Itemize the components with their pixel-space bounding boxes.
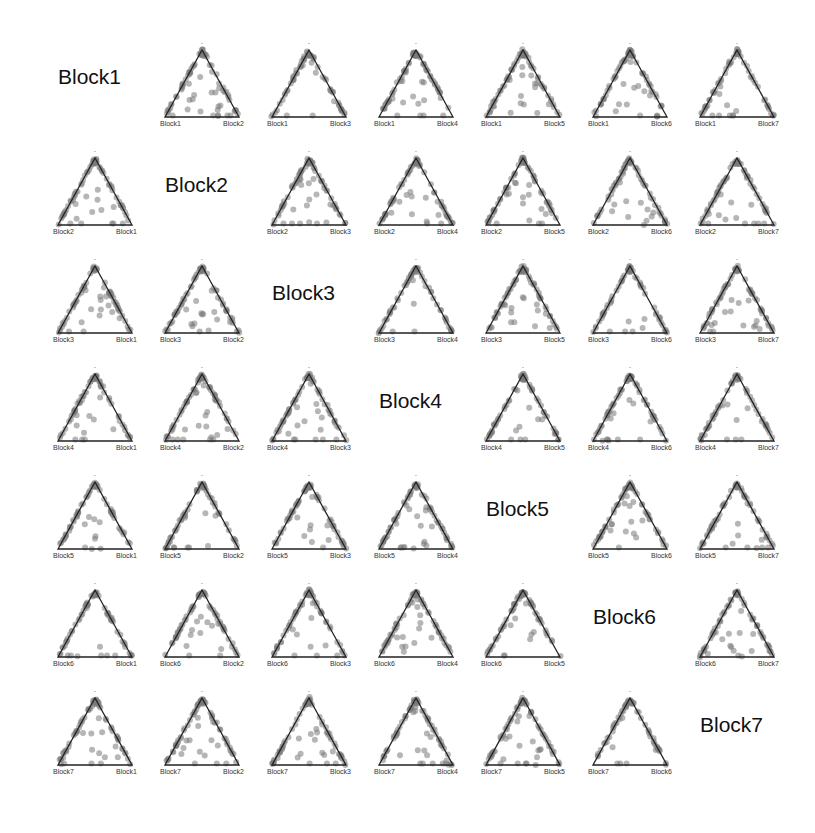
apex-label: · (522, 256, 524, 263)
ternary-plot-7-1: ·Block7Block1 (40, 688, 147, 796)
apex-label: · (736, 40, 738, 47)
ternary-triangle: ·Block3Block5 (468, 256, 575, 364)
right-vertex-label: Block2 (223, 660, 244, 667)
right-vertex-label: Block4 (437, 336, 458, 343)
right-vertex-label: Block3 (330, 444, 351, 451)
left-vertex-label: Block2 (481, 228, 502, 235)
data-points (595, 697, 669, 768)
ternary-triangle: ·Block2Block5 (468, 148, 575, 256)
ternary-plot-3-6: ·Block3Block6 (575, 256, 682, 364)
triangle-outline (486, 374, 560, 441)
apex-label: · (629, 472, 631, 479)
ternary-plot-5-3: ·Block5Block3 (254, 472, 361, 580)
apex-label: · (736, 364, 738, 371)
ternary-triangle: ·Block6Block2 (147, 580, 254, 688)
apex-label: · (94, 688, 96, 695)
triangle-outline (58, 266, 132, 333)
triangle-outline (379, 50, 453, 117)
ternary-plot-6-2: ·Block6Block2 (147, 580, 254, 688)
right-vertex-label: Block3 (330, 228, 351, 235)
right-vertex-label: Block1 (116, 228, 137, 235)
left-vertex-label: Block1 (160, 120, 181, 127)
left-vertex-label: Block5 (695, 552, 716, 559)
ternary-triangle: ·Block5Block7 (682, 472, 789, 580)
triangle-outline (379, 266, 453, 333)
data-points (591, 479, 669, 550)
ternary-plot-7-3: ·Block7Block3 (254, 688, 361, 796)
ternary-triangle: ·Block7Block3 (254, 688, 361, 796)
left-vertex-label: Block2 (695, 228, 716, 235)
apex-label: · (308, 40, 310, 47)
ternary-plot-6-3: ·Block6Block3 (254, 580, 361, 688)
data-points (486, 263, 560, 332)
ternary-plot-5-7: ·Block5Block7 (682, 472, 789, 580)
data-points (164, 696, 240, 766)
apex-label: · (736, 256, 738, 263)
data-points (162, 480, 239, 551)
apex-label: · (201, 364, 203, 371)
right-vertex-label: Block6 (651, 120, 672, 127)
ternary-triangle: ·Block5Block3 (254, 472, 361, 580)
ternary-triangle: ·Block6Block7 (682, 580, 789, 688)
left-vertex-label: Block4 (267, 444, 288, 451)
triangle-outline (58, 158, 132, 225)
ternary-triangle: ·Block7Block2 (147, 688, 254, 796)
diagonal-cell-block5: Block5 (468, 472, 575, 580)
left-vertex-label: Block1 (267, 120, 288, 127)
right-vertex-label: Block4 (437, 660, 458, 667)
ternary-triangle: ·Block6Block5 (468, 580, 575, 688)
right-vertex-label: Block7 (758, 336, 779, 343)
ternary-plot-6-1: ·Block6Block1 (40, 580, 147, 688)
right-vertex-label: Block1 (116, 444, 137, 451)
left-vertex-label: Block6 (374, 660, 395, 667)
left-vertex-label: Block1 (481, 120, 502, 127)
data-points (484, 371, 562, 443)
ternary-plot-4-6: ·Block4Block6 (575, 364, 682, 472)
ternary-plot-5-4: ·Block5Block4 (361, 472, 468, 580)
ternary-plot-4-3: ·Block4Block3 (254, 364, 361, 472)
apex-label: · (629, 256, 631, 263)
triangle-outline (165, 482, 239, 549)
right-vertex-label: Block2 (223, 336, 244, 343)
ternary-triangle: ·Block3Block7 (682, 256, 789, 364)
ternary-triangle: ·Block4Block7 (682, 364, 789, 472)
apex-label: · (94, 580, 96, 587)
ternary-triangle: ·Block4Block5 (468, 364, 575, 472)
data-points (483, 695, 562, 768)
right-vertex-label: Block1 (116, 660, 137, 667)
data-points (485, 155, 559, 227)
ternary-triangle: ·Block1Block3 (254, 40, 361, 148)
block-label: Block4 (379, 389, 442, 413)
data-points (272, 482, 350, 552)
ternary-triangle: ·Block7Block4 (361, 688, 468, 796)
triangle-outline (700, 50, 774, 117)
ternary-triangle: ·Block5Block1 (40, 472, 147, 580)
ternary-plot-1-7: ·Block1Block7 (682, 40, 789, 148)
left-vertex-label: Block5 (374, 552, 395, 559)
apex-label: · (94, 148, 96, 155)
data-points (56, 263, 133, 335)
data-points (700, 263, 775, 335)
block-label: Block1 (58, 65, 121, 89)
left-vertex-label: Block5 (588, 552, 609, 559)
ternary-plot-1-5: ·Block1Block5 (468, 40, 575, 148)
left-vertex-label: Block4 (481, 444, 502, 451)
ternary-triangle: ·Block3Block1 (40, 256, 147, 364)
right-vertex-label: Block2 (223, 444, 244, 451)
data-points (270, 156, 348, 228)
ternary-plot-4-2: ·Block4Block2 (147, 364, 254, 472)
left-vertex-label: Block2 (374, 228, 395, 235)
ternary-plot-2-7: ·Block2Block7 (682, 148, 789, 256)
left-vertex-label: Block4 (160, 444, 181, 451)
ternary-triangle: ·Block3Block2 (147, 256, 254, 364)
apex-label: · (308, 472, 310, 479)
triangle-outline (272, 698, 346, 765)
ternary-triangle: ·Block7Block5 (468, 688, 575, 796)
ternary-plot-7-4: ·Block7Block4 (361, 688, 468, 796)
triangle-outline (700, 374, 774, 441)
triangle-outline (593, 482, 667, 549)
ternary-plot-3-5: ·Block3Block5 (468, 256, 575, 364)
ternary-plot-7-6: ·Block7Block6 (575, 688, 682, 796)
right-vertex-label: Block4 (437, 228, 458, 235)
ternary-triangle: ·Block5Block6 (575, 472, 682, 580)
